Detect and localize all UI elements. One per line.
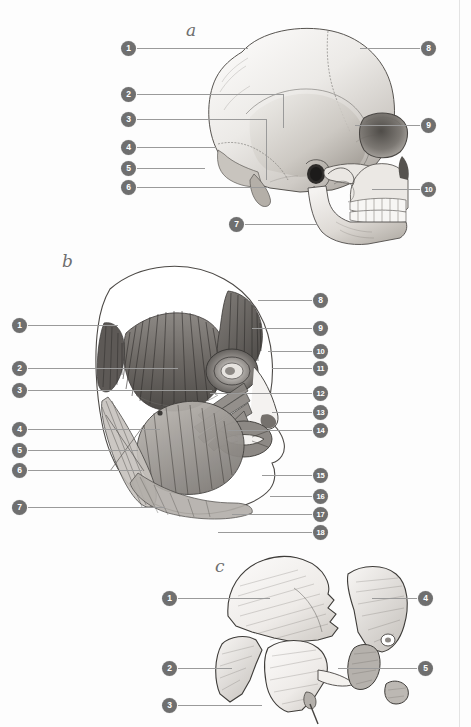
leader-line [137, 48, 248, 49]
leader-line [338, 668, 417, 669]
leader-line [210, 393, 312, 394]
leader-line [28, 325, 118, 326]
leader-line [137, 187, 268, 188]
leader-line [28, 390, 212, 391]
callout-marker-panel-a-10[interactable]: 10 [421, 182, 436, 197]
callout-marker-panel-b-14[interactable]: 14 [313, 423, 328, 438]
leader-line [178, 668, 232, 669]
leader-line [245, 224, 318, 225]
callout-marker-panel-b-8[interactable]: 8 [313, 293, 328, 308]
leader-line [355, 125, 420, 126]
callout-marker-panel-b-15[interactable]: 15 [313, 468, 328, 483]
leader-line [218, 532, 312, 533]
callout-marker-panel-b-2[interactable]: 2 [12, 361, 27, 376]
callout-marker-panel-a-9[interactable]: 9 [421, 118, 436, 133]
leader-line [372, 189, 420, 190]
callout-marker-panel-a-8[interactable]: 8 [421, 41, 436, 56]
leader-line [252, 328, 312, 329]
leader-line [28, 470, 142, 471]
leader-line [228, 430, 312, 431]
callout-marker-panel-a-6[interactable]: 6 [121, 180, 136, 195]
leader-line [137, 119, 266, 120]
callout-marker-panel-c-2[interactable]: 2 [162, 661, 177, 676]
leader-line [272, 368, 312, 369]
callout-marker-panel-b-12[interactable]: 12 [313, 386, 328, 401]
callout-marker-panel-a-1[interactable]: 1 [121, 41, 136, 56]
leader-line [272, 412, 312, 413]
callout-marker-panel-b-6[interactable]: 6 [12, 463, 27, 478]
callout-marker-panel-b-4[interactable]: 4 [12, 422, 27, 437]
leader-line [258, 300, 312, 301]
callout-marker-panel-c-5[interactable]: 5 [418, 661, 433, 676]
callout-marker-panel-a-4[interactable]: 4 [121, 140, 136, 155]
leader-line-vertical [283, 94, 284, 128]
leader-line-vertical [266, 119, 267, 180]
panel-a-artwork [150, 22, 410, 247]
callout-marker-panel-b-5[interactable]: 5 [12, 443, 27, 458]
callout-marker-panel-b-13[interactable]: 13 [313, 405, 328, 420]
callout-marker-panel-b-9[interactable]: 9 [313, 321, 328, 336]
callout-marker-panel-b-11[interactable]: 11 [313, 361, 328, 376]
panel-c-artwork [198, 552, 414, 727]
leader-line [268, 351, 312, 352]
panel-b-artwork [48, 255, 298, 545]
leader-line [28, 429, 160, 430]
callout-marker-panel-a-2[interactable]: 2 [121, 87, 136, 102]
leader-line [178, 598, 270, 599]
callout-marker-panel-b-18[interactable]: 18 [313, 525, 328, 540]
leader-line [372, 598, 417, 599]
leader-line [137, 147, 216, 148]
leader-line [28, 450, 138, 451]
leader-line [137, 94, 283, 95]
leader-line [262, 475, 312, 476]
callout-marker-panel-b-3[interactable]: 3 [12, 383, 27, 398]
leader-line [360, 48, 420, 49]
leader-line [232, 514, 312, 515]
callout-marker-panel-b-17[interactable]: 17 [313, 507, 328, 522]
leader-line [28, 507, 165, 508]
callout-marker-panel-b-1[interactable]: 1 [12, 318, 27, 333]
figure-page: a12345678910b123456789101112131415161718… [0, 0, 471, 727]
page-margin-rule [459, 0, 460, 727]
callout-marker-panel-b-16[interactable]: 16 [313, 489, 328, 504]
callout-marker-panel-a-5[interactable]: 5 [121, 161, 136, 176]
callout-marker-panel-b-7[interactable]: 7 [12, 500, 27, 515]
callout-marker-panel-c-4[interactable]: 4 [418, 591, 433, 606]
leader-line [137, 168, 205, 169]
leader-line [178, 705, 262, 706]
callout-marker-panel-b-10[interactable]: 10 [313, 344, 328, 359]
callout-marker-panel-c-1[interactable]: 1 [162, 591, 177, 606]
leader-line [28, 368, 178, 369]
callout-marker-panel-a-3[interactable]: 3 [121, 112, 136, 127]
leader-line [270, 496, 312, 497]
callout-marker-panel-a-7[interactable]: 7 [229, 217, 244, 232]
callout-marker-panel-c-3[interactable]: 3 [162, 698, 177, 713]
